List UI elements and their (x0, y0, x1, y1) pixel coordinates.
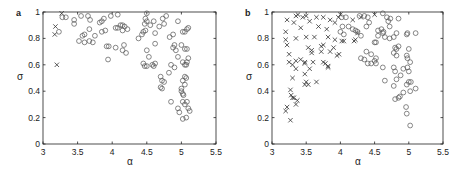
cross-marker (306, 45, 310, 49)
cross-marker (290, 76, 294, 80)
y-tick-label: 0.6 (257, 60, 269, 70)
cross-marker (283, 38, 287, 42)
circle-marker (106, 57, 111, 62)
x-tick-label: 5 (179, 147, 184, 157)
cross-marker (296, 12, 300, 16)
circle-marker (176, 19, 181, 24)
cross-marker (331, 45, 335, 49)
circle-marker (186, 25, 191, 30)
circle-marker (57, 29, 62, 34)
circle-marker (164, 14, 169, 19)
circle-marker (369, 52, 374, 57)
circle-marker (87, 27, 92, 32)
circle-marker (146, 54, 151, 59)
cross-marker (285, 18, 289, 22)
circle-marker (162, 21, 167, 26)
y-tick-label: 0.8 (257, 33, 269, 43)
cross-marker (311, 60, 315, 64)
panel-b: b 33.544.555.500.20.40.60.81 α σ (245, 7, 449, 167)
cross-marker (321, 43, 325, 47)
circle-marker (350, 27, 355, 32)
circle-marker (404, 111, 409, 116)
circle-marker (169, 99, 174, 104)
cross-marker (53, 24, 57, 28)
circle-marker (144, 48, 149, 53)
x-tick-label: 5.5 (210, 147, 222, 157)
x-axis-label: α (355, 156, 361, 167)
circle-marker (93, 33, 98, 38)
circle-marker (398, 94, 403, 99)
cross-marker (53, 32, 57, 36)
panel-a: a 33.544.555.500.20.40.60.81 α σ (16, 7, 222, 167)
x-tick-label: 5 (406, 147, 411, 157)
y-axis-label: σ (17, 71, 24, 82)
x-tick-label: 5.5 (437, 147, 449, 157)
y-tick-label: 0.4 (257, 86, 269, 96)
y-tick-label: 0 (264, 139, 269, 149)
figure: a 33.544.555.500.20.40.60.81 α σ b 33.54… (0, 0, 463, 174)
cross-marker (295, 98, 299, 102)
circle-marker (387, 24, 392, 29)
circle-marker (394, 53, 399, 58)
circle-marker (124, 51, 129, 56)
cross-marker (299, 26, 303, 30)
cross-marker (316, 24, 320, 28)
circle-marker (151, 19, 156, 24)
circle-marker (167, 35, 172, 40)
circle-marker (359, 33, 364, 38)
cross-marker (55, 63, 59, 67)
cross-marker (309, 48, 313, 52)
circle-marker (160, 86, 165, 91)
circle-marker (167, 70, 172, 75)
circle-marker (338, 29, 343, 34)
panel-label: a (16, 8, 22, 18)
circle-marker (404, 105, 409, 110)
cross-marker (294, 36, 298, 40)
circle-marker (364, 49, 369, 54)
cross-marker (319, 49, 323, 53)
circle-marker (158, 85, 163, 90)
cross-marker (283, 30, 287, 34)
circle-marker (394, 77, 399, 82)
cross-marker (312, 35, 316, 39)
circle-marker (380, 65, 385, 70)
circle-marker (120, 28, 125, 33)
circle-marker (136, 36, 141, 41)
circle-marker (153, 41, 158, 46)
cross-marker (292, 20, 296, 24)
circle-marker (82, 40, 87, 45)
circle-marker (77, 39, 82, 44)
x-axis-label: α (127, 156, 133, 167)
circle-marker (364, 24, 369, 29)
scatter-plot-area: 33.544.555.500.20.40.60.81 (257, 7, 449, 157)
circle-marker (88, 18, 93, 23)
x-tick-label: 4 (110, 147, 115, 157)
cross-marker (304, 35, 308, 39)
y-tick-label: 0.4 (28, 86, 40, 96)
cross-marker (333, 38, 337, 42)
cross-marker (285, 105, 289, 109)
x-tick-label: 3.5 (72, 147, 84, 157)
x-tick-label: 4.5 (369, 147, 381, 157)
circle-marker (340, 24, 345, 29)
cross-marker (326, 35, 330, 39)
circle-marker (382, 35, 387, 40)
x-tick-label: 4 (338, 147, 343, 157)
circle-marker (369, 61, 374, 66)
circle-marker (115, 12, 120, 17)
circle-marker (125, 27, 130, 32)
cross-marker (299, 57, 303, 61)
x-tick-label: 4.5 (141, 147, 153, 157)
y-tick-label: 0.2 (257, 113, 269, 123)
y-tick-label: 0 (35, 139, 40, 149)
cross-marker (314, 80, 318, 84)
circle-marker (173, 48, 178, 53)
circle-marker (376, 33, 381, 38)
circle-marker (182, 82, 187, 87)
circle-marker (150, 62, 155, 67)
cross-marker (328, 18, 332, 22)
scatter-plot-area: 33.544.555.500.20.40.60.81 (28, 7, 222, 157)
circle-marker (413, 31, 418, 36)
circle-marker (169, 62, 174, 67)
circle-marker (406, 47, 411, 52)
